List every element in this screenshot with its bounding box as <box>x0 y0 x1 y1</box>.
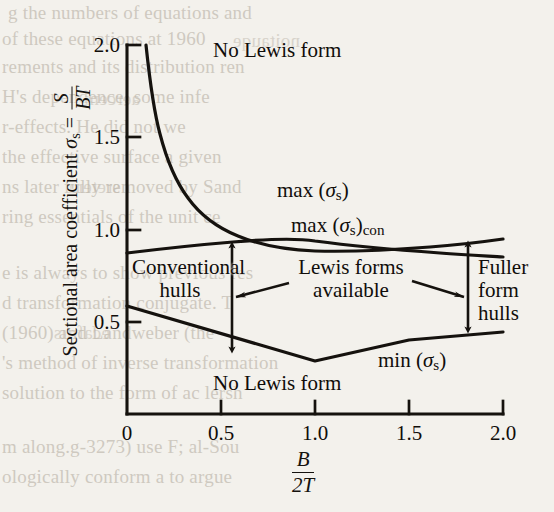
x-tick-label: 1.5 <box>384 421 434 446</box>
curve-label-min-sigma: min (σs) <box>378 348 446 374</box>
fuller-form-hulls-line-3: hulls <box>478 301 519 325</box>
x-tick-label: 0.5 <box>196 421 246 446</box>
conventional-hulls-line-1: Conventional <box>132 255 245 279</box>
curve-label-max-sigma-con: max (σs)con <box>291 213 384 239</box>
sigma-subscript: s <box>336 187 342 203</box>
x-axis-title: B 2T <box>292 448 314 498</box>
region-label-no-lewis-form-top: No Lewis form <box>213 38 341 63</box>
y-axis-title-text: Sectional area coefficient <box>59 149 81 357</box>
x-axis-ticks <box>221 401 503 414</box>
sigma-symbol: σ <box>325 178 335 202</box>
y-axis-fraction-denominator: BT <box>73 87 94 110</box>
fuller-form-hulls-line-2: form <box>478 278 519 302</box>
y-axis-fraction: SBT <box>51 87 94 110</box>
y-axis-sigma-symbol: σ <box>59 139 81 149</box>
region-label-no-lewis-form-bottom: No Lewis form <box>213 371 341 396</box>
region-label-conventional-hulls: Conventional hulls <box>132 256 228 302</box>
region-label-lewis-forms-available: Lewis forms available <box>296 256 406 302</box>
conventional-hulls-line-2: hulls <box>160 278 201 302</box>
y-axis-equals: = <box>59 112 81 133</box>
y-axis-title: Sectional area coefficient σs = SBT <box>51 32 94 412</box>
x-axis-fraction-denominator: 2T <box>292 473 314 497</box>
lewis-forms-line-1: Lewis forms <box>298 255 404 279</box>
sigma-symbol: σ <box>339 213 349 237</box>
x-tick-label: 0 <box>102 421 152 446</box>
fuller-form-hulls-line-1: Fuller <box>478 255 528 279</box>
x-axis-fraction-numerator: B <box>292 448 314 473</box>
sectional-area-coefficient-chart: 2.0 1.5 1.0 0.5 0 0.5 1.0 1.5 2.0 Sectio… <box>0 0 554 512</box>
x-axis-fraction: B 2T <box>292 448 314 496</box>
x-tick-label: 1.0 <box>290 421 340 446</box>
y-axis-sigma-subscript: s <box>67 133 83 139</box>
lewis-forms-line-2: available <box>313 278 389 302</box>
curve-min-sigma <box>127 306 503 361</box>
region-label-fuller-form-hulls: Fuller form hulls <box>478 256 548 325</box>
sigma-subscript: s <box>350 222 356 238</box>
y-axis-fraction-numerator: S <box>51 87 73 110</box>
leader-line-right <box>412 281 464 297</box>
x-tick-label: 2.0 <box>478 421 528 446</box>
sigma-symbol: σ <box>423 348 433 372</box>
con-subscript: con <box>363 222 385 238</box>
curve-label-max-sigma: max (σs) <box>277 178 349 204</box>
sigma-subscript: s <box>433 357 439 373</box>
leader-line-left <box>236 283 289 297</box>
